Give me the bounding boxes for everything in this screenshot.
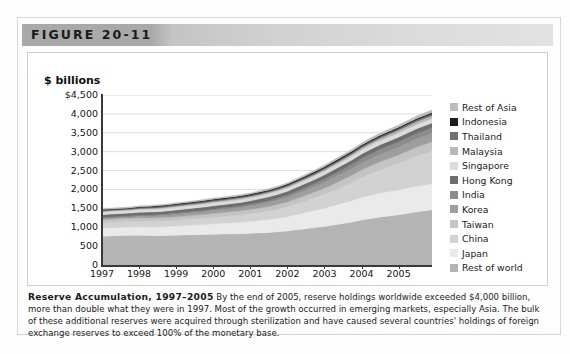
- x-tick-mark: [324, 265, 325, 269]
- x-tick-mark: [399, 265, 400, 269]
- y-tick-label: 4,000: [44, 108, 98, 119]
- figure-caption: Reserve Accumulation, 1997–2005 By the e…: [28, 291, 544, 339]
- legend-label: India: [462, 189, 485, 200]
- legend-label: Taiwan: [462, 219, 494, 230]
- chart-legend: Rest of AsiaIndonesiaThailandMalaysiaSin…: [450, 100, 545, 275]
- stacked-area-chart: [102, 95, 432, 265]
- legend-item: Taiwan: [450, 217, 545, 232]
- legend-label: Japan: [462, 248, 488, 259]
- legend-label: Rest of world: [462, 262, 523, 273]
- legend-label: Malaysia: [462, 146, 503, 157]
- y-axis-title: $ billions: [44, 74, 100, 87]
- y-tick-label: 3,500: [44, 127, 98, 138]
- legend-label: Korea: [462, 204, 488, 215]
- y-tick-label: 1,500: [44, 202, 98, 213]
- x-tick-mark: [250, 265, 251, 269]
- figure-container: FIGURE 20-11 $ billions $4,5004,0003,500…: [0, 0, 570, 354]
- legend-swatch: [450, 147, 458, 155]
- y-tick-label: 2,500: [44, 165, 98, 176]
- legend-swatch: [450, 132, 458, 140]
- legend-item: Hong Kong: [450, 173, 545, 188]
- x-tick-label: 2005: [376, 268, 422, 279]
- legend-label: Rest of Asia: [462, 102, 517, 113]
- legend-label: China: [462, 233, 489, 244]
- figure-right-rule: [560, 17, 561, 335]
- legend-swatch: [450, 103, 458, 111]
- legend-label: Hong Kong: [462, 175, 513, 186]
- figure-top-rule: [17, 17, 561, 18]
- y-tick-label: 3,000: [44, 146, 98, 157]
- legend-swatch: [450, 220, 458, 228]
- legend-swatch: [450, 191, 458, 199]
- x-axis-line: [101, 265, 432, 267]
- x-tick-mark: [362, 265, 363, 269]
- legend-swatch: [450, 264, 458, 272]
- plot-area: [102, 95, 432, 265]
- legend-item: Thailand: [450, 129, 545, 144]
- x-tick-mark: [287, 265, 288, 269]
- legend-swatch: [450, 205, 458, 213]
- y-tick-label: $4,500: [44, 89, 98, 100]
- legend-item: India: [450, 188, 545, 203]
- legend-label: Thailand: [462, 131, 502, 142]
- legend-swatch: [450, 249, 458, 257]
- legend-swatch: [450, 162, 458, 170]
- legend-swatch: [450, 176, 458, 184]
- y-tick-label: 1,000: [44, 221, 98, 232]
- legend-item: Malaysia: [450, 144, 545, 159]
- y-tick-label: 500: [44, 240, 98, 251]
- x-tick-mark: [176, 265, 177, 269]
- figure-left-rule: [17, 17, 18, 335]
- legend-item: Korea: [450, 202, 545, 217]
- legend-item: Rest of world: [450, 261, 545, 276]
- y-tick-label: 2,000: [44, 183, 98, 194]
- legend-label: Singapore: [462, 160, 509, 171]
- legend-item: Japan: [450, 246, 545, 261]
- x-tick-mark: [213, 265, 214, 269]
- y-axis-line: [101, 94, 103, 266]
- legend-item: Indonesia: [450, 115, 545, 130]
- caption-title: Reserve Accumulation, 1997–2005: [28, 291, 214, 302]
- x-tick-mark: [139, 265, 140, 269]
- figure-number-label: FIGURE 20-11: [31, 27, 152, 42]
- legend-label: Indonesia: [462, 116, 507, 127]
- legend-item: China: [450, 231, 545, 246]
- legend-item: Rest of Asia: [450, 100, 545, 115]
- legend-item: Singapore: [450, 158, 545, 173]
- legend-swatch: [450, 118, 458, 126]
- legend-swatch: [450, 235, 458, 243]
